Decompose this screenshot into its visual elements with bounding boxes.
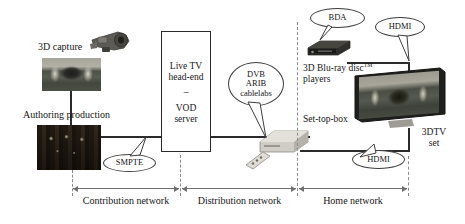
callout-dvb-text: DVB ARIB cablelabs: [228, 70, 284, 98]
authoring-label: Authoring production: [23, 109, 110, 120]
bluray-label-line-2: players: [303, 74, 330, 84]
callout-dvb-line-3: cablelabs: [240, 88, 272, 98]
camera-icon: [88, 28, 132, 56]
authoring-control-room-image: [37, 125, 101, 170]
callout-smpte-tail: [128, 135, 150, 157]
headend-separator: –: [161, 87, 211, 98]
tv-set-label: 3DTV set: [413, 127, 455, 148]
capture-label: 3D capture: [38, 41, 82, 52]
bluray-label-line-1: 3D Blu-ray disc: [303, 63, 364, 73]
callout-hdmi-top-tail: [396, 33, 414, 63]
divider-contribution-distribution: [180, 155, 181, 196]
bluray-trademark: TM: [364, 62, 373, 68]
callout-hdmi-bottom-tail: [358, 143, 380, 159]
callout-dvb-tail: [246, 100, 272, 140]
span-arrow-distribution: [182, 188, 296, 189]
vod-title: VOD server: [161, 103, 211, 124]
network-label-distribution: Distribution network: [180, 195, 299, 206]
callout-smpte-text: SMPTE: [103, 158, 156, 167]
headend-title: Live TV head-end: [161, 61, 211, 82]
capture-scene-image: [42, 58, 101, 91]
span-arrow-home: [299, 188, 407, 189]
divider-distribution-home: [297, 22, 298, 196]
tv-label-line-2: set: [429, 138, 440, 148]
headend-line-2: head-end: [169, 72, 204, 82]
span-arrow-contribution: [73, 188, 179, 189]
callout-bda-tail: [318, 24, 336, 42]
callout-bda-text: BDA: [310, 13, 365, 22]
vod-line-1: VOD: [176, 103, 197, 113]
tv-label-line-1: 3DTV: [422, 127, 446, 137]
diagram-canvas: Live TV head-end – VOD server 3D capture…: [0, 0, 465, 224]
link-stb-riser: [408, 128, 410, 152]
network-label-contribution: Contribution network: [63, 195, 189, 206]
set-top-box-label: Set-top-box: [303, 114, 348, 125]
divider-contribution-start: [72, 170, 73, 196]
divider-home-end: [408, 156, 409, 196]
network-label-home: Home network: [299, 195, 407, 206]
headend-line-1: Live TV: [170, 61, 202, 71]
vod-line-2: server: [174, 114, 197, 124]
remote-control-icon: [243, 150, 275, 170]
bluray-players-label: 3D Blu-ray discTM players: [303, 62, 373, 84]
callout-hdmi-top-text: HDMI: [375, 22, 425, 31]
